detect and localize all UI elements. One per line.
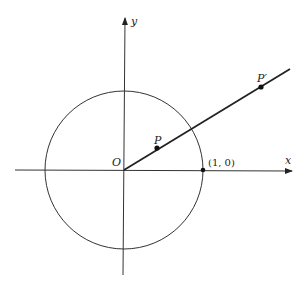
origin-label: O — [112, 156, 121, 169]
point-unit-x — [201, 168, 206, 173]
point-p-label: P — [153, 134, 162, 147]
y-axis — [123, 18, 125, 275]
point-unit-x-label: (1, 0) — [208, 157, 235, 168]
y-axis-label: y — [130, 15, 138, 28]
unit-circle-diagram: y x O P P′ (1, 0) — [0, 0, 306, 290]
x-axis — [15, 170, 292, 171]
x-axis-label: x — [285, 154, 292, 167]
diagram-svg: y x O P P′ (1, 0) — [0, 0, 306, 290]
point-p-prime — [258, 84, 263, 89]
point-p-prime-label: P′ — [256, 72, 267, 85]
